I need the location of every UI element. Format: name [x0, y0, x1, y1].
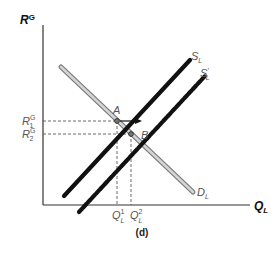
x-tick-q1: Q1L: [112, 208, 125, 224]
supply-curve: [64, 60, 190, 196]
point-b-marker: [129, 132, 134, 137]
guide-lines: [43, 121, 131, 205]
supply-curve-shifted: [79, 76, 205, 212]
labor-market-diagram: RG QL SL S′L DL A B RG1 RG2 Q1L Q2L (d): [0, 0, 275, 253]
x-tick-q2: Q2L: [130, 208, 143, 224]
y-tick-r2: RG2: [22, 127, 35, 142]
supply-curve-label: SL: [191, 50, 202, 64]
point-b-label: B: [141, 129, 148, 141]
y-axis-label: RG: [20, 13, 35, 27]
demand-curve-label: DL: [197, 186, 209, 200]
supply-curve-shifted-label: S′L: [200, 67, 210, 81]
point-a-marker: [115, 119, 120, 124]
point-a-label: A: [112, 104, 120, 116]
x-axis-label: QL: [254, 199, 268, 215]
panel-label: (d): [136, 227, 149, 238]
